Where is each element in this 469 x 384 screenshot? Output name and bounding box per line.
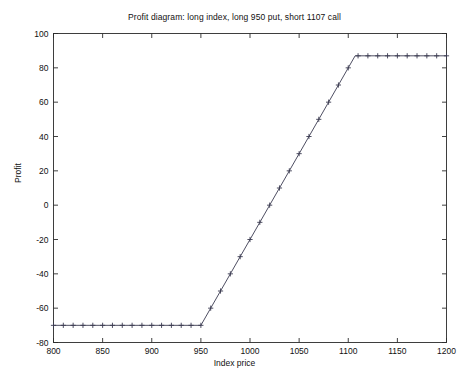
x-tick-label: 850 [96,346,110,356]
y-tick-label: -20 [36,235,49,245]
x-tick-label: 1100 [339,346,358,356]
x-tick-label: 1200 [437,346,456,356]
x-tick-label: 1150 [388,346,407,356]
y-tick-label: -60 [36,303,49,313]
y-tick-label: -80 [36,338,49,348]
data-point-marker [326,100,331,105]
data-point-marker [414,53,419,58]
data-point-marker [336,82,341,87]
data-point-marker [228,271,233,276]
x-tick-label: 900 [145,346,159,356]
data-point-marker [90,323,95,328]
y-axis-label: Profit [13,143,23,203]
data-point-marker [365,53,370,58]
axes-frame [54,34,447,343]
data-point-marker [277,185,282,190]
data-point-marker [188,323,193,328]
x-tick-label: 800 [46,346,60,356]
data-point-marker [179,323,184,328]
data-point-marker [198,323,203,328]
y-tick-label: -40 [36,269,49,279]
data-point-marker [51,323,56,328]
profit-diagram-plot: 80085090095010001050110011501200-80-60-4… [0,0,469,384]
data-point-marker [100,323,105,328]
data-point-marker [208,306,213,311]
data-point-marker [287,168,292,173]
data-point-marker [346,65,351,70]
data-point-marker [385,53,390,58]
x-tick-label: 1050 [290,346,309,356]
data-point-marker [80,323,85,328]
profit-line [54,56,447,326]
data-point-marker [424,53,429,58]
data-series-group [51,53,449,328]
data-point-marker [238,254,243,259]
data-point-marker [247,237,252,242]
y-tick-label: 20 [39,166,49,176]
data-point-marker [149,323,154,328]
y-tick-label: 0 [44,200,49,210]
data-point-marker [71,323,76,328]
data-point-marker [130,323,135,328]
data-point-marker [110,323,115,328]
data-point-marker [434,53,439,58]
data-point-marker [405,53,410,58]
data-point-marker [139,323,144,328]
y-tick-label: 40 [39,132,49,142]
data-point-marker [61,323,66,328]
data-point-marker [395,53,400,58]
data-point-marker [306,134,311,139]
data-point-marker [316,117,321,122]
y-tick-label: 100 [34,29,48,39]
y-tick-label: 80 [39,63,49,73]
data-point-marker [444,53,449,58]
data-point-marker [267,203,272,208]
data-point-marker [169,323,174,328]
x-tick-label: 1000 [241,346,260,356]
tick-label-group: 80085090095010001050110011501200-80-60-4… [34,29,456,356]
data-point-marker [159,323,164,328]
x-axis-label: Index price [0,358,469,368]
data-point-marker [375,53,380,58]
data-point-marker [218,288,223,293]
data-point-marker [120,323,125,328]
y-tick-label: 60 [39,97,49,107]
data-point-marker [257,220,262,225]
figure-canvas: Profit diagram: long index, long 950 put… [0,0,469,384]
x-tick-label: 950 [194,346,208,356]
data-point-marker [355,53,360,58]
data-point-marker [297,151,302,156]
axes-group [54,34,447,343]
